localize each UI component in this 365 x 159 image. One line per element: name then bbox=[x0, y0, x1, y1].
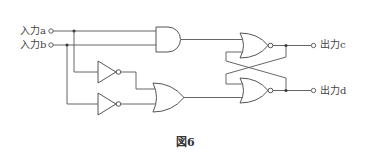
or-gate bbox=[153, 83, 184, 112]
input-b-terminal bbox=[49, 43, 53, 47]
not-gate-1 bbox=[98, 61, 116, 83]
not-gate-2 bbox=[98, 93, 116, 115]
wire-not1-to-or bbox=[121, 72, 158, 89]
wire-b-to-not2 bbox=[67, 45, 98, 104]
nor-gate-1 bbox=[240, 33, 268, 58]
wire-a-to-not1 bbox=[74, 31, 98, 72]
output-d-label: 出力d bbox=[320, 86, 346, 96]
input-a-terminal bbox=[49, 29, 53, 33]
output-d-terminal bbox=[311, 88, 315, 92]
not-gate-2-bubble bbox=[116, 102, 121, 107]
input-b-label: 入力b bbox=[20, 40, 46, 50]
output-c-label: 出力c bbox=[320, 40, 346, 50]
and-gate bbox=[156, 27, 181, 52]
nor-gate-2-bubble bbox=[268, 88, 273, 93]
input-a-label: 入力a bbox=[20, 26, 46, 36]
not-gate-1-bubble bbox=[116, 70, 121, 75]
nor-gate-1-bubble bbox=[268, 43, 273, 48]
output-c-terminal bbox=[311, 43, 315, 47]
nor-gate-2 bbox=[240, 78, 268, 103]
figure-caption: 図6 bbox=[176, 137, 195, 149]
